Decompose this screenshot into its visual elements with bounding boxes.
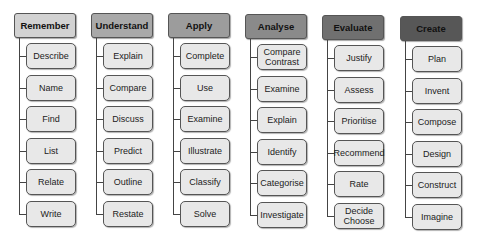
verb-box: Explain — [257, 107, 307, 133]
verb-box: Restate — [103, 201, 153, 227]
verb-box: Categorise — [257, 170, 307, 196]
verb-box: Find — [26, 106, 76, 132]
category-header-remember: Remember — [14, 13, 76, 38]
verb-box: Explain — [103, 43, 153, 69]
verb-box: Predict — [103, 138, 153, 164]
verb-box: Identify — [257, 139, 307, 165]
verb-box: Complete — [180, 43, 230, 69]
verb-box: Justify — [334, 45, 384, 71]
verb-box: Assess — [334, 77, 384, 103]
verb-box: Discuss — [103, 106, 153, 132]
verb-box: Compare Contrast — [257, 44, 307, 70]
connector-line — [96, 38, 97, 214]
category-header-analyse: Analyse — [245, 14, 307, 39]
verb-box: Construct — [412, 172, 462, 198]
verb-box: Use — [180, 75, 230, 101]
verb-box: Prioritise — [334, 108, 384, 134]
verb-box: Solve — [180, 201, 230, 227]
verb-box: Compare — [103, 75, 153, 101]
connector-line — [19, 38, 20, 214]
verb-box: Classify — [180, 169, 230, 195]
connector-line — [327, 40, 328, 216]
verb-box: Outline — [103, 169, 153, 195]
verb-box: Design — [412, 141, 462, 167]
connector-line — [405, 41, 406, 217]
verb-box: Illustrate — [180, 138, 230, 164]
category-header-create: Create — [400, 16, 462, 41]
connector-line — [250, 39, 251, 215]
category-header-apply: Apply — [168, 13, 230, 38]
verb-box: Plan — [412, 46, 462, 72]
verb-box: Write — [26, 201, 76, 227]
verb-box: Recommend — [334, 140, 384, 166]
verb-box: Relate — [26, 169, 76, 195]
connector-line — [173, 38, 174, 214]
verb-box: Compose — [412, 109, 462, 135]
category-header-understand: Understand — [91, 13, 153, 38]
verb-box: Examine — [257, 76, 307, 102]
verb-box: Rate — [334, 171, 384, 197]
verb-box: Invent — [412, 78, 462, 104]
verb-box: Investigate — [257, 202, 307, 228]
verb-box: Name — [26, 75, 76, 101]
verb-box: Decide Choose — [334, 203, 384, 229]
verb-box: Describe — [26, 43, 76, 69]
category-header-evaluate: Evaluate — [322, 15, 384, 40]
verb-box: Imagine — [412, 204, 462, 230]
verb-box: List — [26, 138, 76, 164]
verb-box: Examine — [180, 106, 230, 132]
